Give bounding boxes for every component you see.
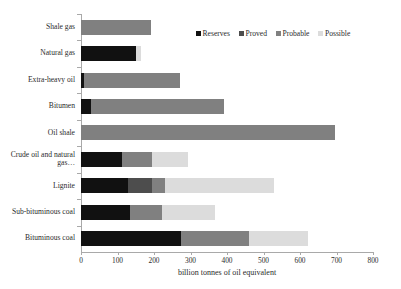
x-axis-title: billion tonnes of oil equivalent [81, 268, 373, 277]
x-axis-tick-label: 200 [148, 256, 159, 265]
stacked-bar[interactable] [81, 231, 308, 246]
legend-item[interactable]: Probable [276, 29, 310, 38]
bar-segment-reserves[interactable] [81, 205, 130, 220]
stacked-bar-chart: Shale gasNatural gasExtra-heavy oilBitum… [0, 0, 401, 289]
y-axis-tick [77, 146, 81, 147]
legend-swatch-icon [196, 31, 201, 36]
stacked-bar[interactable] [81, 205, 215, 220]
y-axis-tick [77, 14, 81, 15]
legend-item[interactable]: Reserves [196, 29, 230, 38]
bar-segment-probable[interactable] [91, 99, 224, 114]
bar-rows [81, 14, 373, 252]
x-axis-tick-label: 400 [221, 256, 232, 265]
y-axis-tick [77, 199, 81, 200]
bar-segment-probable[interactable] [122, 152, 152, 167]
y-axis-tick [77, 40, 81, 41]
x-axis-tick [300, 252, 301, 255]
bar-segment-possible[interactable] [136, 46, 141, 61]
x-axis-tick-label: 700 [331, 256, 342, 265]
stacked-bar[interactable] [81, 73, 180, 88]
x-axis-tick-label: 800 [367, 256, 378, 265]
bar-segment-probable[interactable] [84, 73, 180, 88]
legend-label: Reserves [203, 29, 230, 38]
bar-segment-probable[interactable] [152, 178, 165, 193]
bar-segment-reserves[interactable] [81, 231, 181, 246]
legend-label: Probable [282, 29, 309, 38]
bar-row [81, 93, 373, 119]
legend-item[interactable]: Proved [239, 29, 267, 38]
legend-item[interactable]: Possible [318, 29, 350, 38]
bar-row [81, 146, 373, 172]
category-label: Natural gas [0, 40, 77, 66]
y-axis-tick [77, 120, 81, 121]
bar-segment-reserves[interactable] [81, 46, 136, 61]
category-label: Bituminous coal [0, 226, 77, 252]
category-label: Crude oil and natural gas… [0, 146, 77, 172]
category-label: Extra-heavy oil [0, 67, 77, 93]
x-axis-tick-label: 500 [258, 256, 269, 265]
category-label: Shale gas [0, 14, 77, 40]
bar-segment-possible[interactable] [162, 205, 215, 220]
category-label: Sub-bituminous coal [0, 199, 77, 225]
bar-row [81, 120, 373, 146]
chart-legend: ReservesProvedProbablePossible [196, 29, 350, 38]
bar-segment-reserves[interactable] [81, 99, 91, 114]
stacked-bar[interactable] [81, 46, 141, 61]
bar-segment-possible[interactable] [152, 152, 188, 167]
y-axis-tick [77, 173, 81, 174]
y-axis-tick [77, 67, 81, 68]
stacked-bar[interactable] [81, 178, 274, 193]
stacked-bar[interactable] [81, 20, 151, 35]
x-axis-tick [118, 252, 119, 255]
x-axis-tick-label: 100 [112, 256, 123, 265]
plot-area [81, 14, 373, 252]
legend-swatch-icon [239, 31, 244, 36]
stacked-bar[interactable] [81, 99, 224, 114]
bar-row [81, 226, 373, 252]
x-axis-tick-label: 600 [294, 256, 305, 265]
x-axis-tick [264, 252, 265, 255]
legend-label: Proved [245, 29, 267, 38]
x-axis-ticks: 0100200300400500600700800 [81, 252, 373, 266]
category-label: Oil shale [0, 120, 77, 146]
legend-swatch-icon [276, 31, 281, 36]
x-axis-tick-label: 300 [185, 256, 196, 265]
bar-segment-proved[interactable] [128, 178, 152, 193]
x-axis-tick-label: 0 [79, 256, 83, 265]
stacked-bar[interactable] [81, 152, 188, 167]
y-axis-tick [77, 93, 81, 94]
x-axis-tick [337, 252, 338, 255]
category-axis-labels: Shale gasNatural gasExtra-heavy oilBitum… [0, 14, 77, 252]
bar-row [81, 199, 373, 225]
legend-label: Possible [325, 29, 350, 38]
x-axis-tick [81, 252, 82, 255]
bar-segment-possible[interactable] [249, 231, 308, 246]
x-axis-tick [227, 252, 228, 255]
bar-segment-probable[interactable] [181, 231, 249, 246]
bar-segment-possible[interactable] [165, 178, 273, 193]
bar-segment-reserves[interactable] [81, 152, 122, 167]
category-label: Lignite [0, 173, 77, 199]
category-label: Bitumen [0, 93, 77, 119]
y-axis-tick [77, 226, 81, 227]
x-axis-tick [154, 252, 155, 255]
x-axis-tick [191, 252, 192, 255]
bar-row [81, 67, 373, 93]
legend-swatch-icon [318, 31, 323, 36]
bar-segment-probable[interactable] [130, 205, 162, 220]
bar-segment-reserves[interactable] [81, 178, 128, 193]
bar-segment-probable[interactable] [81, 20, 151, 35]
x-axis-tick [373, 252, 374, 255]
bar-row [81, 40, 373, 66]
bar-segment-probable[interactable] [81, 125, 335, 140]
bar-row [81, 173, 373, 199]
stacked-bar[interactable] [81, 125, 335, 140]
